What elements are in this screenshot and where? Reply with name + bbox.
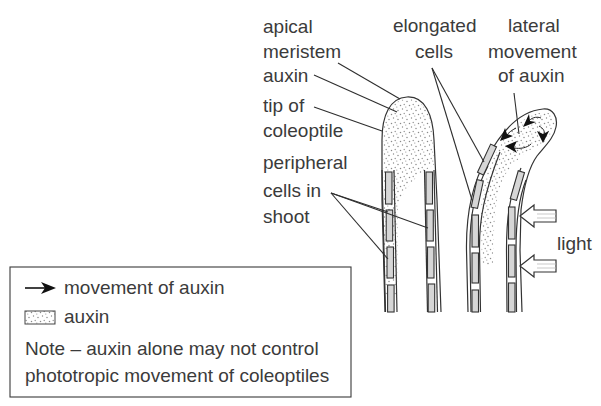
elongated-cell	[472, 253, 479, 283]
peripheral-cell	[386, 172, 393, 204]
peripheral-cell	[427, 210, 434, 241]
label-peripheral-line3: shoot	[263, 206, 310, 227]
leader-elongated-2	[432, 68, 472, 200]
legend-note-line1: Note – auxin alone may not control	[25, 338, 319, 359]
stipple-swatch-icon	[25, 311, 55, 324]
light-arrow-icon	[520, 255, 556, 277]
elongated-cell	[472, 215, 479, 247]
label-lateral-line2: movement	[488, 41, 577, 62]
peripheral-cell	[426, 172, 433, 204]
label-lateral-line1: lateral	[508, 15, 560, 36]
elongated-cell	[510, 171, 524, 201]
leader-elongated-1	[432, 68, 484, 162]
elongated-cell	[509, 245, 516, 277]
light-arrow-icon	[520, 205, 556, 227]
label-apical-line2: meristem	[263, 41, 341, 62]
peripheral-cell	[428, 247, 435, 278]
legend-note-line2: phototropic movement of coleoptiles	[25, 365, 329, 386]
peripheral-cell	[388, 285, 395, 312]
light-arrows	[520, 205, 556, 277]
label-lateral-line3: of auxin	[498, 65, 565, 86]
label-elongated-line2: cells	[415, 41, 453, 62]
label-peripheral-line1: peripheral	[263, 152, 348, 173]
elongated-cell	[509, 283, 516, 312]
elongated-cell	[509, 207, 516, 239]
label-tip-line1: tip of	[263, 95, 305, 116]
leader-apical-meristem	[338, 63, 400, 99]
legend: movement of auxin auxin Note – auxin alo…	[10, 267, 351, 397]
label-apical-line1: apical	[263, 16, 313, 37]
peripheral-cell	[387, 247, 394, 278]
leader-auxin	[314, 75, 397, 112]
legend-auxin-label: auxin	[64, 306, 109, 327]
arrow-right-icon	[25, 282, 56, 294]
elongated-cell	[472, 290, 479, 312]
legend-arrow-label: movement of auxin	[64, 277, 225, 298]
diagram-svg: apical meristem auxin tip of coleoptile …	[0, 0, 601, 406]
phototropism-diagram: apical meristem auxin tip of coleoptile …	[0, 0, 601, 406]
label-tip-line2: coleoptile	[263, 120, 343, 141]
label-light: light	[557, 233, 593, 254]
label-auxin: auxin	[263, 65, 308, 86]
peripheral-cell	[428, 284, 435, 312]
label-elongated-line1: elongated	[393, 15, 476, 36]
label-peripheral-line2: cells in	[263, 180, 321, 201]
straight-coleoptile	[382, 97, 441, 312]
